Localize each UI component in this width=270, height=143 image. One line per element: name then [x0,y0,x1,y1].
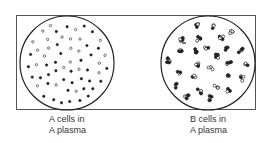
agglutinated-clump [214,53,219,60]
agglutinated-clump [194,48,199,54]
red-cell [35,64,37,66]
red-cell [36,85,38,87]
agglutinated-clump [174,82,178,89]
agglutinated-clump [191,74,197,79]
agglutinated-clump [207,66,214,71]
red-cell [43,55,45,57]
agglutinated-clump [229,29,235,34]
red-cell [63,66,65,68]
agglutinated-clump [195,62,200,68]
red-cell [56,43,58,45]
red-cell [31,76,33,78]
label-right: B cells in A plasma [190,114,227,136]
red-cell [69,100,71,102]
agglutinated-clump [183,94,190,100]
red-cell [90,54,92,56]
red-cell [80,78,82,80]
red-cell [87,95,89,97]
agglutinated-clump [179,36,185,42]
red-cell [60,102,62,104]
diagram-canvas [0,0,270,143]
agglutinated-clump [208,94,213,101]
agglutinated-clump [218,35,225,41]
red-cell [86,44,88,46]
label-right-line1: B cells in [190,114,227,125]
slide-a-cells-a-plasma [20,16,114,110]
red-cell [78,50,80,52]
agglutinated-clump [204,46,210,50]
agglutinated-clump [195,23,200,29]
red-cell [48,47,50,49]
red-cell [32,41,34,43]
red-cell [69,38,71,40]
slide-b-cells-a-plasma [161,16,255,110]
red-cell [88,80,90,82]
red-cell [47,82,49,84]
agglutinated-clump [226,74,230,78]
red-cell [53,99,55,101]
red-cell [98,62,100,64]
red-cell [97,47,99,49]
red-cell [55,30,57,32]
red-cell [78,68,80,70]
red-cell [91,31,93,33]
red-cell [47,73,49,75]
red-cell [60,52,62,54]
red-cell [74,28,76,30]
red-cell [71,82,73,84]
agglutinated-clump [224,46,229,52]
red-cell [66,26,68,28]
red-cell [104,54,106,56]
red-cell [106,67,108,69]
agglutinated-clump [226,87,232,93]
red-cell [70,47,72,49]
red-cell [75,90,77,92]
red-cell [86,69,88,71]
red-cell [63,78,65,80]
label-left-line2: A plasma [49,125,86,136]
red-cell [80,59,82,61]
agglutinated-clump [178,48,184,53]
red-cell [42,30,44,32]
red-cell [36,49,38,51]
label-left: A cells in A plasma [49,114,86,136]
red-cell [49,24,51,26]
red-cell [45,64,47,66]
red-cell [55,70,57,72]
agglutinated-clump [211,24,215,30]
red-cell [92,88,94,90]
red-cell [99,39,101,41]
agglutinated-clump [244,62,249,67]
red-cell [55,84,57,86]
agglutinated-clump [237,47,244,54]
agglutinated-clump [176,70,182,75]
red-cell [29,53,31,55]
label-left-line1: A cells in [49,114,86,125]
red-cell [79,38,81,40]
agglutinated-clump [226,61,233,66]
red-cell [43,95,45,97]
red-cell [100,80,102,82]
red-cell [79,99,81,101]
red-cell [27,66,29,68]
red-cell [61,36,63,38]
agglutinated-clump [166,57,172,64]
red-cell [98,72,100,74]
agglutinated-clump [239,75,245,82]
red-cell [69,61,71,63]
red-cell [83,88,85,90]
red-cell [83,25,85,27]
red-cell [39,77,41,79]
label-right-line2: A plasma [190,125,227,136]
agglutinated-clump [196,35,202,42]
agglutinated-clump [213,84,219,89]
agglutinated-clump [196,88,203,95]
red-cell [70,70,72,72]
red-cell [67,89,69,91]
red-cell [46,38,48,40]
red-cell [54,61,56,63]
